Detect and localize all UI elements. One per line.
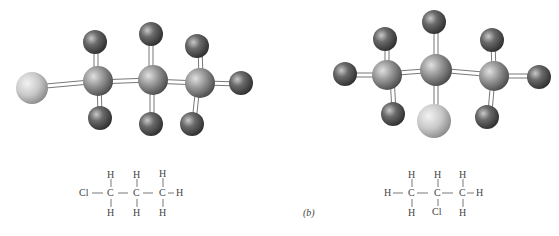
atom-h: H [408, 170, 415, 180]
atom-h: H [434, 170, 441, 180]
atom-h: H [459, 208, 466, 218]
atom-h: H [459, 170, 466, 180]
right-structural-formula: H C C C H H H Cl H H H [0, 0, 559, 236]
atom-h: H [408, 208, 415, 218]
panel-label: (b) [303, 207, 315, 218]
atom-c3: C [459, 188, 466, 198]
atom-h: H [384, 188, 391, 198]
atom-h: H [476, 188, 483, 198]
atom-c2: C [434, 188, 441, 198]
atom-cl: Cl [432, 207, 441, 217]
atom-c1: C [408, 188, 415, 198]
